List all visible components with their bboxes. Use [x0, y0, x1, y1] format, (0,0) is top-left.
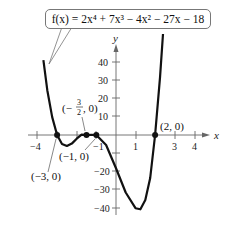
- root-point: [93, 132, 99, 138]
- root-label-2: (2, 0): [160, 120, 184, 133]
- y-axis: 40 30 20 10 −20 −30 −40 y: [94, 32, 120, 215]
- x-tick-label: 1: [133, 141, 138, 152]
- svg-text:(−: (−: [62, 102, 72, 115]
- root-label-neg1: (−1, 0): [59, 150, 89, 163]
- callout-pointer: [49, 27, 72, 64]
- function-equation-callout: f(x) = 2x⁴ + 7x³ − 4x² − 27x − 18: [45, 9, 211, 29]
- y-tick-label: −30: [94, 184, 110, 195]
- svg-text:3: 3: [77, 98, 81, 107]
- y-tick-label: −20: [94, 166, 110, 177]
- root-point: [84, 132, 90, 138]
- x-tick-label: 4: [192, 141, 197, 152]
- y-axis-arrow-icon: [114, 44, 119, 52]
- root-point: [152, 132, 158, 138]
- y-axis-label: y: [112, 32, 118, 44]
- root-point: [54, 132, 60, 138]
- root-label-neg3-halves: (− 3 2 , 0): [62, 98, 98, 117]
- y-tick-label: 40: [98, 57, 108, 68]
- x-axis-arrow-icon: [202, 133, 210, 138]
- x-axis-label: x: [213, 129, 219, 141]
- root-label-neg3: (−3, 0): [31, 170, 61, 183]
- svg-text:, 0): , 0): [83, 102, 98, 115]
- function-graph: −4 −1 1 3 4 x 40 30 20 10 −20 −30 −40 y: [0, 0, 232, 225]
- leader-line: [82, 117, 85, 131]
- leader-line: [48, 139, 56, 172]
- y-tick-label: −40: [94, 203, 110, 214]
- x-tick-label: −1: [93, 141, 104, 152]
- x-tick-label: −4: [30, 141, 41, 152]
- svg-text:2: 2: [77, 108, 81, 117]
- y-tick-label: 10: [98, 111, 108, 122]
- x-tick-label: 3: [172, 141, 177, 152]
- y-tick-label: 30: [98, 75, 108, 86]
- y-tick-label: 20: [98, 93, 108, 104]
